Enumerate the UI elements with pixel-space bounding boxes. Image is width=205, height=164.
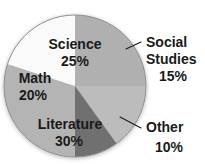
slice-value-literature: 30%	[55, 133, 84, 149]
callout-label-social-studies-line2: Studies	[146, 51, 197, 67]
slice-label-science: Science	[49, 36, 102, 52]
slice-label-literature: Literature	[38, 116, 103, 132]
pie-chart: Science 25% Math 20% Literature 30% Soci…	[0, 0, 205, 164]
slice-label-math: Math	[19, 70, 52, 86]
callout-label-other: Other	[146, 119, 184, 135]
callout-value-other: 10%	[155, 139, 184, 155]
slice-value-math: 20%	[19, 87, 48, 103]
callout-label-social-studies-line1: Social	[146, 34, 187, 50]
slice-value-science: 25%	[61, 53, 90, 69]
pie-chart-svg: Science 25% Math 20% Literature 30% Soci…	[0, 0, 205, 164]
callout-value-social-studies: 15%	[159, 68, 188, 84]
